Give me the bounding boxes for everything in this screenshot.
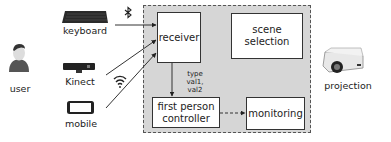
wifi-icon: [114, 76, 126, 88]
projector-icon: [323, 48, 363, 73]
kinect-label: Kinect: [58, 76, 102, 87]
mobile-phone-icon: [67, 101, 94, 114]
user-label: user: [3, 83, 37, 94]
keyboard-label: keyboard: [58, 25, 112, 36]
keyboard-icon: [62, 11, 108, 23]
mobile-arrow: [106, 53, 156, 108]
kinect-icon: [63, 63, 95, 73]
kinect-arrow: [106, 40, 156, 75]
user-icon: [9, 44, 29, 72]
mobile-label: mobile: [58, 118, 104, 129]
projection-label: projection: [320, 80, 376, 91]
bluetooth-icon: [125, 8, 131, 18]
